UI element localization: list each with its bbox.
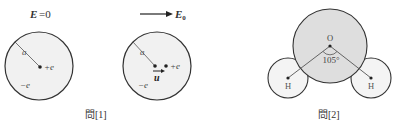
hydrogen-right-label: H [368, 81, 374, 91]
cloud-charge-label: −e [20, 80, 30, 90]
atom-with-field: E0 a +e u −e [123, 8, 191, 100]
nucleus-dot [164, 64, 168, 68]
cloud-center-dot [153, 64, 157, 68]
diagram-canvas: E =0 a +e −e E0 a +e u −e 問[1] O [0, 0, 396, 128]
figure2-caption: 問[2] [318, 109, 340, 120]
nucleus-charge-label: +e [170, 61, 180, 71]
atom-no-field: E =0 a +e −e [5, 8, 73, 100]
field-zero-label: =0 [39, 8, 51, 20]
nucleus-dot [38, 65, 42, 69]
radius-label: a [140, 47, 145, 57]
hydrogen-left-nucleus-dot [286, 76, 289, 79]
field-E-label: E [29, 8, 37, 20]
cloud-charge-label: −e [138, 80, 148, 90]
displacement-label: u [154, 72, 160, 83]
figure1-caption: 問[1] [85, 109, 107, 120]
water-molecule: O 105° H H [268, 9, 391, 98]
oxygen-nucleus-dot [328, 44, 331, 47]
field-E0-label: E0 [174, 8, 186, 22]
radius-label: a [22, 47, 27, 57]
hydrogen-left-label: H [285, 81, 291, 91]
angle-label: 105° [322, 55, 340, 65]
oxygen-label: O [327, 33, 333, 43]
hydrogen-right-nucleus-dot [369, 76, 372, 79]
nucleus-charge-label: +e [44, 62, 54, 72]
field-arrowhead-icon [166, 11, 173, 17]
